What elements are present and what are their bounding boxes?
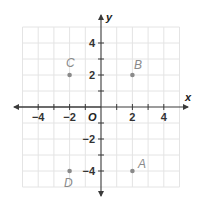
point-b: B: [130, 58, 142, 77]
coordinate-plane: y x O −4 −2 2 4 4 2 −2 −4 A B C D: [0, 0, 201, 206]
point-label: C: [66, 56, 75, 70]
x-tick-label: −2: [63, 111, 76, 123]
point-c: C: [66, 56, 75, 77]
y-axis-label: y: [105, 11, 113, 23]
y-tick-label: −2: [82, 133, 95, 145]
y-tick-label: 2: [89, 69, 95, 81]
point-label: B: [134, 58, 142, 72]
point-d: D: [64, 169, 73, 190]
point-label: A: [137, 157, 146, 171]
origin-label: O: [88, 111, 97, 123]
y-tick-label: 4: [89, 37, 96, 49]
x-tick-label: 4: [161, 111, 168, 123]
x-tick-label: −4: [32, 111, 45, 123]
x-tick-label: 2: [129, 111, 135, 123]
x-axis-label: x: [184, 91, 192, 103]
y-tick-label: −4: [82, 165, 95, 177]
point-label: D: [64, 176, 73, 190]
